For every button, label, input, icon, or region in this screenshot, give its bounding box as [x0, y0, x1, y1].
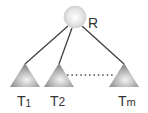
edge-root-tm: [82, 26, 124, 64]
subtree-t1-triangle: [10, 63, 40, 87]
subtree-t2-label: T2: [50, 93, 66, 109]
root-node: [64, 6, 86, 28]
tree-diagram: R T1 T2 Tm: [0, 0, 148, 113]
subtree-t2-triangle: [44, 63, 74, 87]
subtree-tm-triangle: [109, 63, 139, 87]
subtree-t1-label-subscript: 1: [26, 98, 32, 109]
subtree-t1-label: T1: [17, 93, 32, 109]
edge-root-t2: [59, 28, 72, 64]
subtree-t2-label-subscript: 2: [59, 95, 66, 109]
subtree-tm-label-subscript: m: [127, 96, 136, 108]
root-label: R: [88, 15, 98, 31]
subtree-tm-label: Tm: [118, 93, 136, 109]
